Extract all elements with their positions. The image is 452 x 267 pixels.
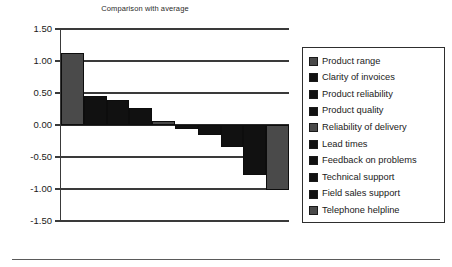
legend-item: Lead times: [309, 136, 439, 153]
comparison-with-average-chart: Comparison with average 1.501.000.500.00…: [0, 0, 452, 267]
legend-label: Product range: [322, 57, 380, 66]
legend-label: Feedback on problems: [322, 156, 417, 165]
legend-swatch-icon: [309, 206, 318, 215]
legend-label: Product reliability: [322, 90, 393, 99]
legend-label: Technical support: [322, 173, 394, 182]
legend-swatch-icon: [309, 190, 318, 199]
legend-item: Feedback on problems: [309, 153, 439, 170]
legend-item: Clarity of invoices: [309, 70, 439, 87]
bar-feedback-on-problems: [198, 125, 221, 135]
legend-item: Telephone helpline: [309, 202, 439, 219]
legend-label: Telephone helpline: [322, 206, 400, 215]
legend-label: Lead times: [322, 140, 367, 149]
legend-swatch-icon: [309, 123, 318, 132]
y-axis-tick-label: 0.50: [0, 87, 52, 98]
bar-lead-times: [175, 125, 198, 129]
legend-label: Reliability of delivery: [322, 123, 407, 132]
legend-item: Product reliability: [309, 86, 439, 103]
legend-label: Field sales support: [322, 189, 400, 198]
legend-swatch-icon: [309, 107, 318, 116]
bar-clarity-of-invoices: [84, 96, 107, 125]
legend-swatch-icon: [309, 90, 318, 99]
legend-item: Product range: [309, 53, 439, 70]
y-axis-tick-label: 0.00: [0, 119, 52, 130]
bar-field-sales-support: [243, 125, 266, 175]
legend-swatch-icon: [309, 140, 318, 149]
legend-item: Field sales support: [309, 186, 439, 203]
bar-product-range: [61, 53, 84, 125]
legend-item: Product quality: [309, 103, 439, 120]
y-axis-tick-label: 1.00: [0, 55, 52, 66]
legend-label: Clarity of invoices: [322, 73, 395, 82]
legend-swatch-icon: [309, 156, 318, 165]
y-axis-tick-label: -1.00: [0, 183, 52, 194]
legend-swatch-icon: [309, 173, 318, 182]
bar-technical-support: [221, 125, 244, 147]
chart-title: Comparison with average: [0, 4, 290, 13]
legend-swatch-icon: [309, 73, 318, 82]
legend-item: Technical support: [309, 169, 439, 186]
plot-area: [61, 29, 289, 221]
footer-divider: [12, 259, 440, 260]
bar-telephone-helpline: [266, 125, 289, 190]
bar-product-quality: [129, 108, 152, 125]
legend-item: Reliability of delivery: [309, 119, 439, 136]
y-axis-tick-label: 1.50: [0, 23, 52, 34]
bar-reliability-of-delivery: [152, 121, 175, 125]
legend-label: Product quality: [322, 106, 384, 115]
y-axis-tick-label: -0.50: [0, 151, 52, 162]
legend-swatch-icon: [309, 57, 318, 66]
chart-legend: Product rangeClarity of invoicesProduct …: [302, 47, 445, 223]
bar-product-reliability: [107, 100, 130, 125]
y-axis-tick-label: -1.50: [0, 215, 52, 226]
